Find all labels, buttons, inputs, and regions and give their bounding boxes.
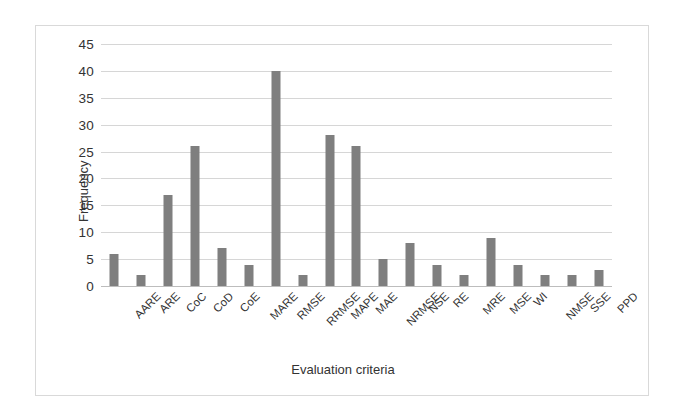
y-axis-tick-label: 45 bbox=[79, 37, 94, 52]
bar[interactable] bbox=[460, 275, 469, 286]
bar-slot bbox=[182, 44, 209, 286]
y-axis-tick-label: 15 bbox=[79, 198, 94, 213]
x-axis-tick-label: CoC bbox=[184, 290, 209, 315]
bar-slot bbox=[531, 44, 558, 286]
x-axis-tick-label: MARE bbox=[268, 290, 300, 322]
bar-slot bbox=[504, 44, 531, 286]
bar-series bbox=[101, 44, 612, 286]
bar-slot bbox=[558, 44, 585, 286]
bar[interactable] bbox=[379, 259, 388, 286]
bar[interactable] bbox=[486, 238, 495, 286]
x-axis-tick-labels: AAREARECoCCoDCoEMARERMSERRMSEMAPEMAENRMS… bbox=[101, 290, 612, 360]
bar[interactable] bbox=[110, 254, 119, 286]
y-axis-tick-label: 5 bbox=[86, 252, 94, 267]
bar[interactable] bbox=[406, 243, 415, 286]
x-axis-tick-label: PPD bbox=[614, 290, 639, 315]
bar[interactable] bbox=[594, 270, 603, 286]
bar[interactable] bbox=[513, 265, 522, 287]
bar[interactable] bbox=[298, 275, 307, 286]
bar-slot bbox=[209, 44, 236, 286]
y-axis-tick-label: 10 bbox=[79, 225, 94, 240]
x-axis-tick-label: RMSE bbox=[295, 290, 327, 322]
bar[interactable] bbox=[271, 71, 280, 286]
gridline bbox=[101, 286, 612, 287]
bar-slot bbox=[289, 44, 316, 286]
y-axis-tick-label: 25 bbox=[79, 144, 94, 159]
bar-slot bbox=[397, 44, 424, 286]
x-axis-title: Evaluation criteria bbox=[36, 362, 650, 377]
x-axis-tick-label: MSE bbox=[507, 290, 533, 316]
bar-slot bbox=[316, 44, 343, 286]
bar[interactable] bbox=[244, 265, 253, 287]
bar-slot bbox=[370, 44, 397, 286]
bar-slot bbox=[451, 44, 478, 286]
bar[interactable] bbox=[218, 248, 227, 286]
y-axis-tick-label: 0 bbox=[86, 279, 94, 294]
y-axis-tick-label: 20 bbox=[79, 171, 94, 186]
y-axis-tick-label: 35 bbox=[79, 90, 94, 105]
bar-slot bbox=[585, 44, 612, 286]
bar-slot bbox=[343, 44, 370, 286]
bar-slot bbox=[235, 44, 262, 286]
bar-chart: Frequency 051015202530354045 AAREARECoCC… bbox=[36, 26, 650, 397]
bar[interactable] bbox=[164, 195, 173, 286]
bar[interactable] bbox=[137, 275, 146, 286]
bar[interactable] bbox=[540, 275, 549, 286]
bar-slot bbox=[155, 44, 182, 286]
x-axis-tick-label: MRE bbox=[481, 290, 508, 317]
bar[interactable] bbox=[191, 146, 200, 286]
bar[interactable] bbox=[433, 265, 442, 287]
bar-slot bbox=[478, 44, 505, 286]
bar[interactable] bbox=[567, 275, 576, 286]
x-axis-tick-label: ARE bbox=[157, 290, 182, 315]
bar-slot bbox=[424, 44, 451, 286]
bar[interactable] bbox=[325, 135, 334, 286]
x-axis-title-label: Evaluation criteria bbox=[291, 362, 394, 377]
bar-slot bbox=[262, 44, 289, 286]
x-axis-tick-label: CoE bbox=[238, 290, 262, 314]
y-axis-tick-label: 30 bbox=[79, 117, 94, 132]
bar-slot bbox=[101, 44, 128, 286]
x-axis-tick-label: WI bbox=[531, 290, 549, 308]
y-axis-tick-label: 40 bbox=[79, 63, 94, 78]
x-axis-tick-label: CoD bbox=[211, 290, 236, 315]
bar[interactable] bbox=[352, 146, 361, 286]
bar-slot bbox=[128, 44, 155, 286]
figure-frame: Frequency 051015202530354045 AAREARECoCC… bbox=[35, 25, 649, 396]
x-axis-tick-label: RE bbox=[451, 290, 471, 310]
